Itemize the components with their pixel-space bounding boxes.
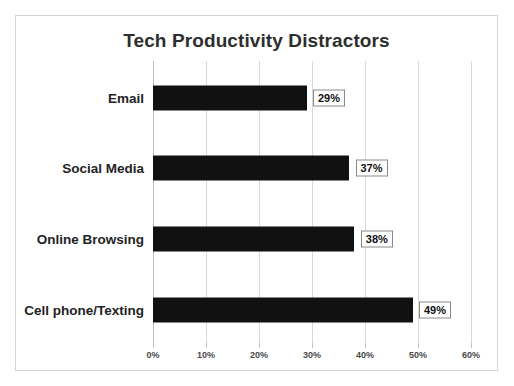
tick-mark-20	[259, 343, 260, 348]
x-axis-tick-label: 30%	[303, 350, 321, 360]
x-axis-tick-label: 10%	[197, 350, 215, 360]
x-axis-tick-label: 20%	[250, 350, 268, 360]
bar-value-label: 37%	[356, 160, 388, 177]
chart-frame: Tech Productivity Distractors 0% 10% 20%…	[15, 15, 498, 371]
bar-online-browsing[interactable]	[153, 227, 354, 252]
category-label: Cell phone/Texting	[24, 303, 144, 318]
category-label: Online Browsing	[37, 232, 144, 247]
category-label: Email	[108, 91, 144, 106]
x-axis-tick-label: 60%	[462, 350, 480, 360]
gridline-60	[471, 61, 472, 343]
plot-area: 0% 10% 20% 30% 40% 50% 60% Email 29% Soc…	[153, 61, 471, 343]
x-axis-tick-label: 40%	[356, 350, 374, 360]
tick-mark-60	[471, 343, 472, 348]
tick-mark-0	[153, 343, 154, 348]
bar-value-label: 29%	[313, 90, 345, 107]
tick-mark-30	[312, 343, 313, 348]
bar-cell-phone-texting[interactable]	[153, 298, 413, 323]
tick-mark-10	[206, 343, 207, 348]
bar-value-label: 38%	[361, 231, 393, 248]
category-label: Social Media	[62, 161, 144, 176]
bar-email[interactable]	[153, 86, 307, 111]
tick-mark-50	[418, 343, 419, 348]
bar-social-media[interactable]	[153, 156, 349, 181]
tick-mark-40	[365, 343, 366, 348]
x-axis-tick-label: 0%	[146, 350, 159, 360]
bar-value-label: 49%	[419, 302, 451, 319]
chart-title: Tech Productivity Distractors	[16, 30, 497, 52]
x-axis-tick-label: 50%	[409, 350, 427, 360]
